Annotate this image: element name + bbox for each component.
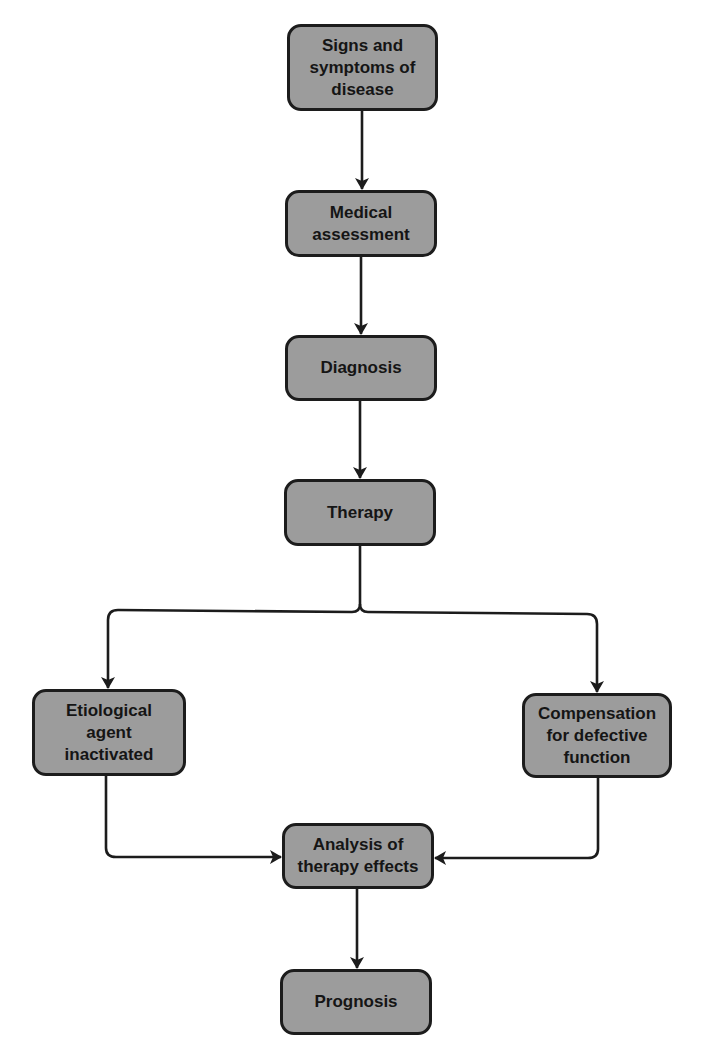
node-compensation-for-defective-function: Compensation for defective function [522,693,672,778]
arrow-compensation-to-analysis [435,778,598,858]
node-etiological-agent-inactivated: Etiological agent inactivated [32,689,186,776]
node-prognosis: Prognosis [280,969,432,1035]
node-therapy: Therapy [284,479,436,546]
node-analysis-of-therapy-effects: Analysis of therapy effects [282,823,434,889]
arrow-etiological-to-analysis [106,775,281,857]
node-medical-assessment: Medical assessment [285,190,437,257]
arrow-therapy-to-etiological [108,546,360,688]
node-signs-and-symptoms: Signs and symptoms of disease [287,24,438,111]
node-diagnosis: Diagnosis [285,335,437,401]
arrow-therapy-to-compensation [360,604,597,692]
